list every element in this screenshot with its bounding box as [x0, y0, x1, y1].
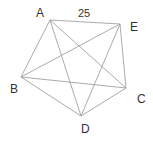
- edge-c-d: [81, 88, 126, 116]
- vertex-labels: AECDB: [10, 6, 146, 136]
- edge-weight-a-e: 25: [78, 7, 90, 19]
- vertex-label-e: E: [130, 20, 138, 34]
- vertex-label-a: A: [36, 6, 44, 20]
- edge-a-e: [50, 20, 120, 24]
- edge-b-d: [21, 77, 81, 116]
- edge-weight-labels: 25: [78, 7, 90, 19]
- vertex-label-d: D: [81, 122, 90, 136]
- pentagon-graph-diagram: 25 AECDB: [0, 0, 153, 143]
- edge-e-c: [120, 24, 126, 88]
- edge-e-d: [81, 24, 120, 116]
- vertex-label-b: B: [10, 82, 18, 96]
- vertex-label-c: C: [137, 92, 146, 106]
- edge-a-b: [21, 20, 50, 77]
- graph-edges: [21, 20, 126, 116]
- edge-b-c: [21, 77, 126, 88]
